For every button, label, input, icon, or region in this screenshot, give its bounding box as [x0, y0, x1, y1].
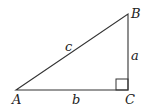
side-label-c: c	[65, 39, 73, 54]
vertex-label-c: C	[125, 92, 135, 107]
vertex-label-a: A	[11, 92, 21, 107]
side-label-a: a	[131, 48, 139, 63]
right-angle-marker	[116, 79, 128, 90]
vertex-label-b: B	[130, 6, 141, 21]
side-label-b: b	[72, 92, 80, 107]
right-triangle-diagram: A B C a b c	[0, 0, 144, 109]
